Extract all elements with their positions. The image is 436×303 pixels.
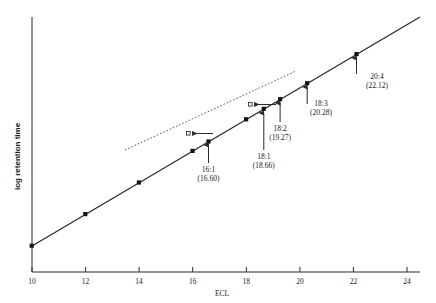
x-axis-title: ECL bbox=[215, 289, 230, 298]
data-point-14 bbox=[137, 180, 141, 184]
data-point-22-12 bbox=[354, 52, 358, 56]
annotation-label-18-3-value: (20.28) bbox=[310, 108, 332, 117]
data-point-18-66 bbox=[262, 107, 266, 111]
data-point-18 bbox=[244, 117, 248, 121]
annotation-label-18-1-value: (18.66) bbox=[253, 161, 275, 170]
annotation-label-16-1-value: (16.60) bbox=[198, 174, 220, 183]
data-point-10 bbox=[30, 244, 34, 248]
data-point-16-60 bbox=[206, 139, 210, 143]
annotation-label-20-4-name: 20:4 bbox=[370, 72, 384, 81]
x-tick-label-24: 24 bbox=[403, 277, 411, 286]
annotation-label-20-4-value: (22.12) bbox=[366, 81, 388, 90]
x-tick-label-20: 20 bbox=[296, 277, 304, 286]
annotation-label-18-3-name: 18:3 bbox=[314, 99, 328, 108]
x-tick-label-12: 12 bbox=[82, 277, 90, 286]
data-point-12 bbox=[83, 212, 87, 216]
annotation-label-18-2-value: (19.27) bbox=[269, 133, 291, 142]
chart-figure: 10 12 14 16 18 20 22 24 ECL log retentio… bbox=[0, 0, 436, 303]
annotation-label-18-2-name: 18:2 bbox=[273, 124, 287, 133]
annotation-label-16-1-name: 16:1 bbox=[202, 165, 216, 174]
x-tick-label-22: 22 bbox=[350, 277, 358, 286]
y-axis-title: log retention time bbox=[13, 122, 22, 190]
x-tick-label-16: 16 bbox=[189, 277, 197, 286]
data-point-20-28 bbox=[305, 81, 309, 85]
data-point-16-1 bbox=[190, 149, 194, 153]
x-tick-label-18: 18 bbox=[243, 277, 251, 286]
annotation-label-18-1-name: 18:1 bbox=[257, 152, 271, 161]
x-tick-label-14: 14 bbox=[135, 277, 143, 286]
ecl-retention-scatter-plot: 10 12 14 16 18 20 22 24 ECL log retentio… bbox=[0, 0, 436, 303]
x-tick-label-10: 10 bbox=[28, 277, 36, 286]
data-point-19-27 bbox=[278, 97, 282, 101]
